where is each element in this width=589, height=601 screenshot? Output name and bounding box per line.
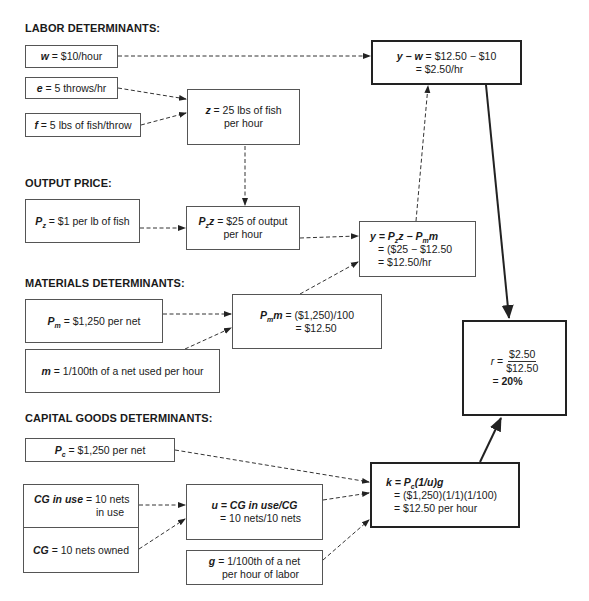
eq-u-line1: u = CG in use/CG (211, 499, 297, 512)
eq-pzz-line1: = $25 of output (214, 215, 287, 227)
box-revenue-pzz: Pzz = $25 of output per hour (186, 206, 300, 250)
var-y-minus-w: y − w (397, 50, 423, 62)
eq-cg: = 10 nets owned (49, 544, 129, 556)
var-cg: CG (33, 544, 49, 556)
arrow-g-to-k (323, 520, 369, 560)
box-fish-per-throw: f = 5 lbs of fish/throw (25, 113, 141, 137)
eq-y-line2: = ($25 − $12.50 (370, 243, 475, 256)
box-depreciation-g: g = 1/100th of a net per hour of labor (186, 550, 323, 585)
eq-y-line1: y = Pzz − Pmm (370, 230, 475, 243)
eq-m: = 1/100th of a net used per hour (51, 365, 204, 377)
var-pz: Pz (35, 215, 46, 227)
eq-e: = 5 throws/hr (42, 82, 106, 94)
var-cg-in-use: CG in use (34, 493, 83, 505)
box-wage: w = $10/hour (25, 45, 118, 68)
arrow-yw-to-r (486, 85, 509, 318)
box-price-m: Pm = $1,250 per net (25, 299, 163, 343)
eq-f: = 5 lbs of fish/throw (38, 119, 132, 131)
var-w: w (41, 50, 49, 62)
eq-pc: = $1,250 per net (66, 444, 146, 456)
arrow-pmm-to-y (300, 262, 358, 294)
var-pzz: Pzz (198, 215, 214, 227)
eq-y-line3: = $12.50/hr (370, 256, 475, 269)
box-net-output-y: y = Pzz − Pmm = ($25 − $12.50 = $12.50/h… (359, 221, 476, 277)
box-price-z: Pz = $1 per lb of fish (25, 199, 140, 243)
var-pmm: Pmm (260, 309, 283, 321)
box-cg-owned: CG = 10 nets owned (23, 527, 139, 573)
box-materials-cost: Pmm = ($1,250)/100 = $12.50 (232, 294, 382, 349)
var-m: m (42, 365, 51, 377)
eq-pmm-line1: = ($1,250)/100 (283, 309, 355, 321)
arrow-cg-to-u (139, 519, 185, 549)
box-utilization-u: u = CG in use/CG = 10 nets/10 nets (186, 484, 323, 540)
box-profit-rate-r: r = $2.50 $12.50 = 20% (462, 320, 567, 416)
arrow-pc-to-k (175, 450, 369, 482)
box-effort: e = 5 throws/hr (25, 77, 118, 99)
eq-pz: = $1 per lb of fish (46, 215, 130, 227)
eq-yw-line2: = $2.50/hr (416, 63, 478, 76)
eq-k-line2: = ($1,250)(1/1)(1/100) (386, 489, 518, 502)
eq-k-line3: = $12.50 per hour (386, 502, 518, 515)
eq-cginuse-line2: in use (34, 506, 138, 519)
arrow-pzz-to-y (300, 236, 358, 238)
eq-u-line2: = 10 nets/10 nets (208, 512, 301, 525)
box-y-minus-w: y − w = $12.50 − $10 = $2.50/hr (371, 40, 522, 85)
eq-pzz-line2: per hour (223, 228, 262, 241)
arrow-y-to-yw (416, 86, 428, 221)
section-header-materials: MATERIALS DETERMINANTS: (25, 277, 185, 289)
section-header-labor: LABOR DETERMINANTS: (25, 22, 160, 34)
eq-k-line1: k = Pc(1/u)g (386, 476, 518, 489)
eq-cginuse-line1: = 10 nets (83, 493, 129, 505)
box-output-z: z = 25 lbs of fish per hour (187, 89, 300, 145)
eq-g-line2: per hour of labor (210, 568, 299, 581)
result-r: 20% (502, 375, 523, 387)
eq-r: = (494, 355, 506, 368)
arrow-k-to-r (480, 418, 501, 462)
section-header-output-price: OUTPUT PRICE: (25, 177, 112, 189)
arrow-m-to-pmm (185, 328, 231, 349)
arrow-e-to-z (118, 88, 186, 99)
eq-g-line1: = 1/100th of a net (215, 555, 300, 567)
eq-z-line1: = 25 lbs of fish (211, 104, 282, 116)
eq-pm: = $1,250 per net (61, 315, 141, 327)
eq-yw-line1: = $12.50 − $10 (423, 50, 497, 62)
eq-w: = $10/hour (49, 50, 102, 62)
var-pc: Pc (55, 444, 66, 456)
box-capital-cost-k: k = Pc(1/u)g = ($1,250)(1/1)(1/100) = $1… (370, 462, 520, 528)
fraction-denominator: $12.50 (506, 362, 538, 375)
eq-pmm-line2: = $12.50 (277, 322, 336, 335)
fraction-numerator: $2.50 (508, 348, 536, 362)
fraction-r: $2.50 $12.50 (506, 348, 538, 375)
arrow-u-to-k (323, 493, 369, 500)
box-cg-in-use: CG in use = 10 nets in use (23, 484, 139, 528)
eq-r-line2: = (492, 375, 501, 387)
eq-z-line2: per hour (224, 117, 263, 130)
box-price-c: Pc = $1,250 per net (25, 438, 175, 462)
arrow-f-to-z (141, 113, 186, 125)
box-materials-m: m = 1/100th of a net used per hour (25, 349, 220, 393)
section-header-capital: CAPITAL GOODS DETERMINANTS: (25, 412, 212, 424)
var-pm: Pm (48, 315, 61, 327)
